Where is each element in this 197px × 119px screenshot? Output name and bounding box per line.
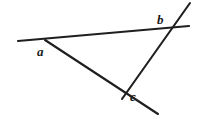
triangle-diagram-svg: [0, 0, 197, 119]
vertex-label-c: c: [130, 90, 136, 103]
vertex-label-a: a: [37, 45, 44, 58]
vertex-label-b: b: [157, 13, 164, 26]
figure-background: [0, 0, 197, 119]
geometry-figure: a b c: [0, 0, 197, 119]
